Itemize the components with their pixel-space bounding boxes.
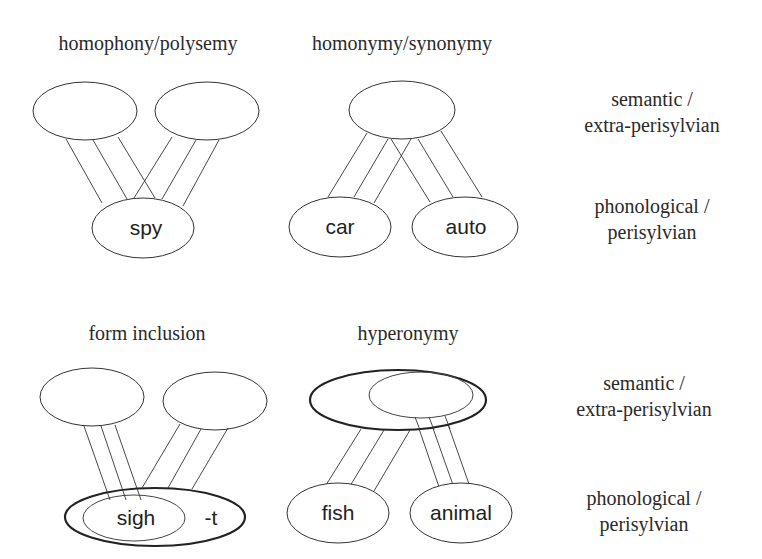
panel-form-inclusion: form inclusion sigh -t xyxy=(40,322,267,546)
phonological-label-line2: perisylvian xyxy=(600,513,689,536)
word-label-fish: fish xyxy=(322,501,355,524)
panel-hyperonymy: hyperonymy fish animal xyxy=(287,322,512,543)
panel-title: homonymy/synonymy xyxy=(312,32,492,55)
word-label: spy xyxy=(130,216,163,239)
semantic-node-left xyxy=(33,82,137,140)
phonological-label-line1: phonological / xyxy=(587,487,702,510)
connection-lines xyxy=(66,137,219,206)
phonological-label-line1: phonological / xyxy=(595,195,710,218)
semantic-node-left xyxy=(40,368,144,426)
panel-homonymy-synonymy: homonymy/synonymy car auto xyxy=(289,32,518,257)
phonological-label-line2: perisylvian xyxy=(608,221,697,244)
word-label-car: car xyxy=(325,215,354,238)
lexical-relations-diagram: homophony/polysemy spy homonymy/synonymy… xyxy=(0,0,762,559)
semantic-node-right xyxy=(163,372,267,430)
semantic-label-line1: semantic / xyxy=(611,88,693,110)
level-labels-bottom: semantic / extra-perisylvian phonologica… xyxy=(576,372,712,536)
connection-lines xyxy=(328,131,482,203)
semantic-node xyxy=(349,81,455,139)
word-label-animal: animal xyxy=(430,501,492,524)
panel-title: homophony/polysemy xyxy=(59,32,238,55)
semantic-label-line1: semantic / xyxy=(603,372,685,394)
word-label-sigh: sigh xyxy=(117,506,156,529)
semantic-label-line2: extra-perisylvian xyxy=(576,398,712,421)
panel-title: hyperonymy xyxy=(357,322,458,345)
panel-title: form inclusion xyxy=(88,322,205,344)
semantic-node-outer xyxy=(310,370,486,430)
level-labels-top: semantic / extra-perisylvian phonologica… xyxy=(584,88,720,244)
panel-homophony-polysemy: homophony/polysemy spy xyxy=(33,32,259,258)
semantic-node-right xyxy=(155,82,259,140)
word-label-auto: auto xyxy=(446,215,487,238)
semantic-label-line2: extra-perisylvian xyxy=(584,114,720,137)
suffix-label: -t xyxy=(205,506,218,529)
